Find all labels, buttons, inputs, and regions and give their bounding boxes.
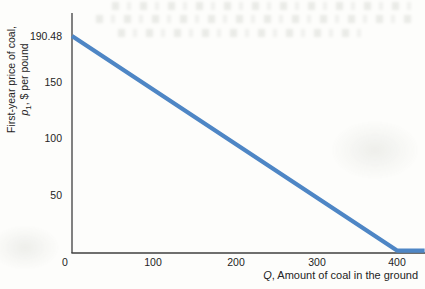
- y-axis-label-units: , $ per pound: [18, 43, 30, 105]
- x-tick-label: 100: [131, 256, 175, 268]
- y-tick-label: 50: [4, 189, 62, 201]
- x-tick-label: 400: [375, 256, 419, 268]
- y-axis-label-variable: p: [18, 110, 30, 116]
- x-tick-label: 0: [43, 256, 87, 268]
- y-axis-label-line1: First-year price of coal,: [5, 26, 17, 133]
- x-tick-label: 200: [214, 256, 258, 268]
- x-axis-label-variable: Q: [263, 269, 272, 281]
- x-axis-label-text: , Amount of coal in the ground: [272, 269, 418, 281]
- plot-area: [0, 0, 425, 289]
- price-line: [72, 36, 425, 251]
- x-tick-label: 300: [295, 256, 339, 268]
- y-axis-label-subscript: 1: [24, 105, 33, 109]
- x-axis-label: Q, Amount of coal in the ground: [263, 269, 418, 281]
- y-axis-label: First-year price of coal, p1, $ per poun…: [5, 5, 32, 155]
- coal-price-chart: 190.48 150 100 50 0 100 200 300 400 Firs…: [0, 0, 425, 289]
